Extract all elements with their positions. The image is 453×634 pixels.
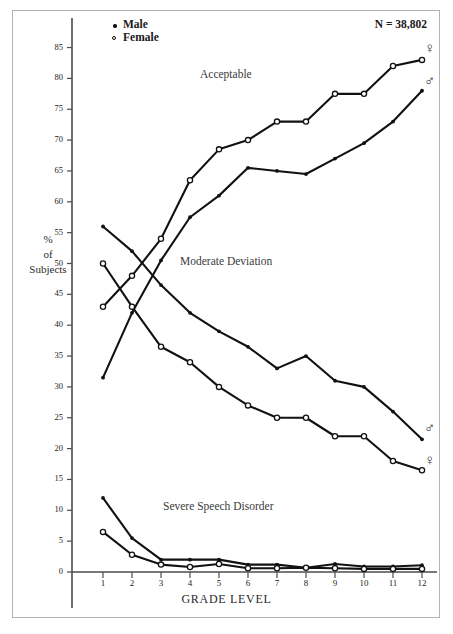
data-point-open <box>332 566 337 571</box>
x-tick-label: 6 <box>239 578 257 588</box>
data-point-open <box>274 119 279 124</box>
data-point-filled <box>130 536 134 540</box>
y-tick-label: 60 <box>41 196 63 206</box>
y-axis-label: % of Subjects <box>18 232 78 277</box>
data-point-open <box>216 561 221 566</box>
y-tick-label: 85 <box>41 42 63 52</box>
band-label-moderate-deviation: Moderate Deviation <box>180 255 272 267</box>
y-tick-label: 45 <box>41 288 63 298</box>
moderate-female-symbol: ♀ <box>424 452 435 469</box>
data-point-filled <box>246 166 250 170</box>
data-point-filled <box>130 249 134 253</box>
axis-lines <box>72 18 437 608</box>
data-point-filled <box>101 225 105 229</box>
data-point-open <box>187 360 192 365</box>
data-point-open <box>100 261 105 266</box>
y-tick-label: 20 <box>41 443 63 453</box>
data-point-open <box>303 415 308 420</box>
data-point-filled <box>188 311 192 315</box>
sample-size-label: N = 38,802 <box>375 18 427 30</box>
data-point-filled <box>246 345 250 349</box>
data-point-filled <box>304 172 308 176</box>
y-tick-label: 35 <box>41 350 63 360</box>
filled-dot-icon <box>113 24 117 28</box>
data-point-open <box>216 384 221 389</box>
x-tick-label: 2 <box>123 578 141 588</box>
data-point-open <box>361 91 366 96</box>
data-point-open <box>129 273 134 278</box>
data-series-layer <box>100 57 424 571</box>
x-tick-label: 1 <box>94 578 112 588</box>
data-point-filled <box>391 120 395 124</box>
open-circle-icon <box>112 36 116 40</box>
x-tick-label: 5 <box>210 578 228 588</box>
data-point-filled <box>362 141 366 145</box>
y-tick-label: 10 <box>41 504 63 514</box>
y-tick-label: 0 <box>41 566 63 576</box>
chart-plot-area <box>0 0 453 634</box>
data-point-filled <box>159 283 163 287</box>
data-point-filled <box>333 157 337 161</box>
data-point-open <box>274 415 279 420</box>
y-tick-label: 55 <box>41 227 63 237</box>
data-point-open <box>303 565 308 570</box>
legend-item-male: Male <box>112 18 159 31</box>
data-point-open <box>158 562 163 567</box>
y-tick-label: 65 <box>41 165 63 175</box>
data-point-filled <box>304 354 308 358</box>
band-label-severe-speech-disorder: Severe Speech Disorder <box>163 500 274 512</box>
y-tick-label: 30 <box>41 381 63 391</box>
data-point-open <box>390 566 395 571</box>
data-point-open <box>303 119 308 124</box>
y-tick-label: 25 <box>41 412 63 422</box>
x-tick-label: 4 <box>181 578 199 588</box>
x-tick-label: 10 <box>355 578 373 588</box>
data-point-open <box>361 566 366 571</box>
y-tick-label: 40 <box>41 319 63 329</box>
x-tick-label: 9 <box>326 578 344 588</box>
data-point-filled <box>275 366 279 370</box>
data-point-open <box>419 566 424 571</box>
data-point-open <box>361 434 366 439</box>
data-point-open <box>187 178 192 183</box>
data-point-filled <box>101 376 105 380</box>
legend-item-female: Female <box>112 31 159 44</box>
data-point-open <box>129 552 134 557</box>
data-point-open <box>274 566 279 571</box>
data-point-filled <box>217 329 221 333</box>
y-tick-label: 50 <box>41 258 63 268</box>
data-point-open <box>332 91 337 96</box>
data-point-open <box>332 434 337 439</box>
data-point-open <box>216 147 221 152</box>
data-point-open <box>187 564 192 569</box>
data-point-open <box>158 344 163 349</box>
female-symbol-acceptable: ♀ <box>424 40 435 57</box>
x-tick-label: 3 <box>152 578 170 588</box>
y-tick-label: 70 <box>41 134 63 144</box>
x-tick-label: 11 <box>384 578 402 588</box>
data-point-filled <box>188 215 192 219</box>
data-point-open <box>245 138 250 143</box>
data-point-filled <box>159 558 163 562</box>
data-point-filled <box>101 496 105 500</box>
data-point-filled <box>362 385 366 389</box>
male-symbol-moderate: ♂ <box>424 420 435 437</box>
data-point-open <box>129 304 134 309</box>
male-symbol-acceptable: ♂ <box>424 73 435 90</box>
data-point-filled <box>420 437 424 441</box>
data-point-filled <box>391 410 395 414</box>
data-point-filled <box>275 169 279 173</box>
data-point-filled <box>188 558 192 562</box>
band-label-acceptable: Acceptable <box>200 68 252 80</box>
x-tick-label: 12 <box>413 578 431 588</box>
y-tick-label: 80 <box>41 72 63 82</box>
data-point-open <box>100 304 105 309</box>
data-point-open <box>245 403 250 408</box>
x-tick-label: 8 <box>297 578 315 588</box>
data-point-filled <box>217 194 221 198</box>
data-point-open <box>158 236 163 241</box>
data-point-open <box>419 57 424 62</box>
series-1 <box>101 89 424 380</box>
y-tick-label: 15 <box>41 473 63 483</box>
data-point-filled <box>159 259 163 263</box>
